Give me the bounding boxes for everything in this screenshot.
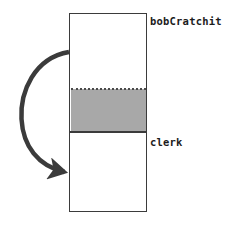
dotted-divider-line — [71, 88, 146, 90]
diagram-canvas: bobCratchit clerk — [0, 0, 233, 227]
shaded-activation-band[interactable] — [71, 89, 146, 132]
solid-divider-line — [69, 131, 147, 133]
self-call-arrow-path — [21, 52, 69, 172]
lifeline-label-bottom: clerk — [150, 137, 183, 148]
lifeline-label-top: bobCratchit — [150, 16, 222, 27]
